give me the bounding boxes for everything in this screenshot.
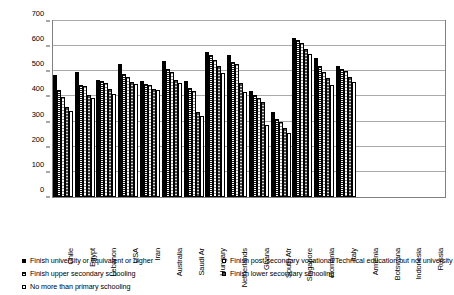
y-tick-mark-100 <box>46 171 50 172</box>
bar <box>287 133 291 197</box>
y-tick-mark-500 <box>46 71 50 72</box>
legend-label: No more than primary schooling <box>30 282 130 291</box>
bar-group <box>249 21 269 197</box>
bar <box>308 54 312 197</box>
y-tick-mark-0 <box>46 197 50 198</box>
legend-swatch-icon <box>22 272 26 276</box>
legend-swatch-icon <box>222 272 226 276</box>
bar-group <box>140 21 160 197</box>
bar-group <box>380 21 400 197</box>
legend-swatch-icon <box>222 259 226 263</box>
y-tick-mark-700 <box>46 21 50 22</box>
chart-legend: Finish university or equivalent or highe… <box>22 255 452 295</box>
legend-column-left: Finish university or equivalent or highe… <box>22 255 153 294</box>
bar-group <box>423 21 443 197</box>
legend-swatch-icon <box>22 285 26 289</box>
bar <box>156 90 160 197</box>
y-tick-mark-300 <box>46 121 50 122</box>
y-tick-mark-600 <box>46 46 50 47</box>
bar <box>134 84 138 197</box>
bar-group <box>118 21 138 197</box>
y-tick-label-600: 600 <box>32 35 44 43</box>
bar <box>221 73 225 197</box>
x-axis-labels: ChileEgyptLebanonUSAIranAustraliaSaudi A… <box>53 200 445 250</box>
y-tick-mark-200 <box>46 146 50 147</box>
bar-group <box>53 21 73 197</box>
bar-group <box>227 21 247 197</box>
bar-group <box>75 21 95 197</box>
legend-item[interactable]: No more than primary schooling <box>22 281 153 292</box>
legend-item[interactable]: Finish post-secondary vocational/Technic… <box>222 255 453 266</box>
legend-label: Finish lower secondary schooling <box>230 269 334 278</box>
bar <box>200 116 204 197</box>
y-tick-label-100: 100 <box>32 161 44 169</box>
bar <box>330 85 334 197</box>
bar-group <box>96 21 116 197</box>
y-tick-label-0: 0 <box>40 186 44 194</box>
legend-item[interactable]: Finish lower secondary schooling <box>222 268 453 279</box>
legend-label: Finish upper secondary schooling <box>30 269 135 278</box>
y-tick-label-500: 500 <box>32 60 44 68</box>
bar <box>243 92 247 197</box>
legend-swatch-icon <box>22 259 26 263</box>
y-tick-label-200: 200 <box>32 136 44 144</box>
y-tick-label-300: 300 <box>32 111 44 119</box>
bar-group <box>292 21 312 197</box>
y-axis: 0100200300400500600700 <box>0 20 50 198</box>
bar-chart: 0100200300400500600700 ChileEgyptLebanon… <box>0 0 454 295</box>
bar-group <box>401 21 421 197</box>
bar <box>178 83 182 197</box>
bar-group <box>205 21 225 197</box>
bars-layer <box>53 21 445 197</box>
bar <box>265 125 269 197</box>
bar-group <box>162 21 182 197</box>
legend-label: Finish university or equivalent or highe… <box>30 256 153 265</box>
legend-label: Finish post-secondary vocational/Technic… <box>230 256 453 265</box>
y-tick-mark-400 <box>46 96 50 97</box>
bar-group <box>271 21 291 197</box>
bar-group <box>184 21 204 197</box>
y-tick-label-700: 700 <box>32 10 44 18</box>
bar-group <box>358 21 378 197</box>
legend-column-right: Finish post-secondary vocational/Technic… <box>222 255 453 281</box>
y-tick-label-400: 400 <box>32 85 44 93</box>
bar <box>352 82 356 197</box>
bar-group <box>314 21 334 197</box>
bar <box>91 98 95 197</box>
bar-group <box>336 21 356 197</box>
legend-item[interactable]: Finish university or equivalent or highe… <box>22 255 153 266</box>
bar <box>112 94 116 197</box>
bar <box>69 111 73 197</box>
legend-item[interactable]: Finish upper secondary schooling <box>22 268 153 279</box>
